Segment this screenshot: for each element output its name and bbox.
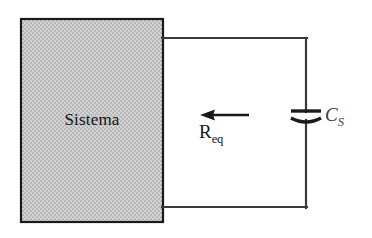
capacitor-label-subscript: S — [338, 115, 344, 129]
req-label: Req — [199, 122, 223, 145]
req-label-subscript: eq — [212, 132, 223, 146]
req-label-symbol: R — [199, 121, 212, 142]
circuit-diagram-canvas: Sistema Req CS — [0, 0, 372, 238]
capacitor-label-symbol: C — [325, 104, 338, 125]
capacitor-label: CS — [325, 105, 344, 128]
req-arrow-head — [200, 110, 215, 121]
system-block-label: Sistema — [21, 110, 163, 130]
